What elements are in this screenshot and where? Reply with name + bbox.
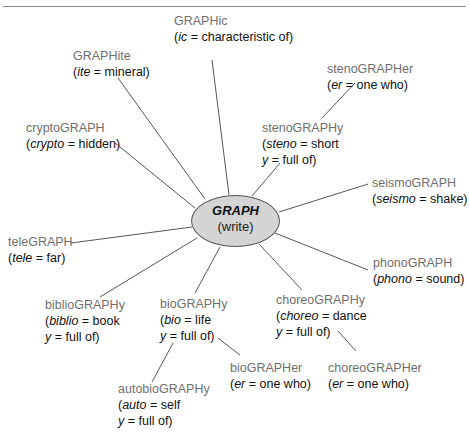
- edge-center-seismograph: [279, 184, 368, 212]
- derived-word: bioGRAPHer: [230, 360, 311, 376]
- word-part: er: [332, 377, 343, 391]
- node-stenography: stenoGRAPHy(steno = shorty = full of): [262, 120, 343, 168]
- node-choreography: choreoGRAPHy(choreo = dancey = full of): [276, 292, 367, 340]
- derived-word: autobioGRAPHy: [118, 381, 210, 397]
- word-part: ite: [77, 65, 90, 79]
- root-meaning: (write): [192, 219, 279, 235]
- derived-word: choreoGRAPHy: [276, 292, 367, 308]
- derived-word: stenoGRAPHy: [262, 120, 343, 136]
- word-part: bio: [164, 313, 181, 327]
- derived-word: bioGRAPHy: [160, 296, 227, 312]
- word-part-definition: y = full of): [262, 152, 343, 168]
- edge-biography-autobiography: [152, 343, 173, 382]
- word-part-definition: (crypto = hidden): [26, 136, 120, 152]
- word-part: auto: [122, 398, 146, 412]
- word-part: y: [276, 325, 282, 339]
- word-part-definition: y = full of): [160, 328, 227, 344]
- word-part: biblio: [49, 314, 78, 328]
- edge-center-choreography: [259, 244, 302, 290]
- edge-center-cryptograph: [115, 143, 195, 208]
- word-part-definition: (tele = far): [8, 250, 73, 266]
- derived-word: seismoGRAPH: [372, 175, 468, 191]
- root-ellipse: GRAPH (write): [191, 195, 280, 247]
- word-part-definition: (ic = characteristic of): [174, 29, 293, 45]
- node-autobiography: autobioGRAPHy(auto = selfy = full of): [118, 381, 210, 429]
- word-part: crypto: [30, 137, 64, 151]
- edge-center-graphic: [212, 60, 229, 195]
- word-part-definition: (biblio = book: [45, 313, 125, 329]
- word-part-definition: (ite = mineral): [73, 64, 150, 80]
- node-biography: bioGRAPHy(bio = lifey = full of): [160, 296, 227, 344]
- derived-word: biblioGRAPHy: [45, 297, 125, 313]
- word-part: phono: [377, 272, 412, 286]
- word-part: y: [118, 414, 124, 428]
- word-part-definition: y = full of): [276, 324, 367, 340]
- word-part-definition: y = full of): [45, 329, 125, 345]
- node-graphite: GRAPHite(ite = mineral): [73, 48, 150, 80]
- word-part-definition: (phono = sound): [373, 271, 464, 287]
- node-graphic: GRAPHic(ic = characteristic of): [174, 13, 293, 45]
- node-bibliography: biblioGRAPHy(biblio = booky = full of): [45, 297, 125, 345]
- word-part-definition: (bio = life: [160, 312, 227, 328]
- word-part-definition: (er = one who): [230, 376, 311, 392]
- edge-center-bibliography: [100, 238, 197, 297]
- word-part-definition: (auto = self: [118, 397, 210, 413]
- word-part: y: [45, 330, 51, 344]
- word-part: er: [331, 78, 342, 92]
- word-part: y: [160, 329, 166, 343]
- node-telegraph: teleGRAPH(tele = far): [8, 234, 73, 266]
- word-part: ic: [178, 30, 187, 44]
- node-choreographer: choreoGRAPHer(er = one who): [328, 360, 422, 392]
- word-part: tele: [12, 251, 32, 265]
- word-part-definition: (choreo = dance: [276, 308, 367, 324]
- word-part-definition: (steno = short: [262, 136, 343, 152]
- node-phonograph: phonoGRAPH(phono = sound): [373, 255, 464, 287]
- word-part: er: [234, 377, 245, 391]
- edge-center-telegraph: [71, 227, 192, 243]
- derived-word: stenoGRAPHer: [327, 61, 413, 77]
- derived-word: phonoGRAPH: [373, 255, 464, 271]
- edge-center-phonograph: [275, 233, 368, 270]
- node-cryptograph: cryptoGRAPH(crypto = hidden): [26, 120, 120, 152]
- derived-word: choreoGRAPHer: [328, 360, 422, 376]
- node-stenographer: stenoGRAPHer(er = one who): [327, 61, 413, 93]
- word-part-definition: (er = one who): [328, 376, 422, 392]
- word-part: y: [262, 153, 268, 167]
- node-seismograph: seismoGRAPH(seismo = shake): [372, 175, 468, 207]
- derived-word: teleGRAPH: [8, 234, 73, 250]
- word-part-definition: (er = one who): [327, 77, 413, 93]
- edge-center-biography: [195, 247, 220, 293]
- word-part: choreo: [280, 309, 318, 323]
- node-biographer: bioGRAPHer(er = one who): [230, 360, 311, 392]
- word-part: seismo: [376, 192, 416, 206]
- derived-word: GRAPHic: [174, 13, 293, 29]
- word-part-definition: y = full of): [118, 413, 210, 429]
- word-part-definition: (seismo = shake): [372, 191, 468, 207]
- word-part: steno: [266, 137, 297, 151]
- derived-word: GRAPHite: [73, 48, 150, 64]
- root-word: GRAPH: [192, 203, 279, 219]
- derived-word: cryptoGRAPH: [26, 120, 120, 136]
